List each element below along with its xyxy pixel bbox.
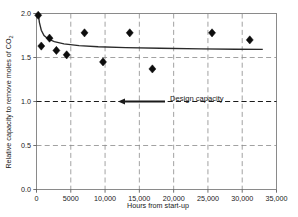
- x-tick-label: 0: [35, 194, 39, 203]
- x-tick-label: 5000: [63, 194, 79, 203]
- y-tick-label: 2.0: [21, 9, 31, 18]
- y-axis-title-main: Relative capacity to remove moles of CO: [4, 38, 13, 169]
- x-axis-title: Hours from start-up: [127, 201, 189, 210]
- x-tick-label: 35,000: [266, 194, 288, 203]
- y-tick-label: 0.0: [21, 185, 31, 194]
- y-tick-label: 1.0: [21, 97, 31, 106]
- y-tick-label: 0.5: [21, 141, 31, 150]
- design-capacity-label: Design capacity: [170, 94, 224, 103]
- x-tick-label: 30,000: [231, 194, 253, 203]
- x-tick-label: 25,000: [197, 194, 219, 203]
- y-tick-label: 1.5: [21, 53, 31, 62]
- relative-capacity-scatter-chart: 0500010,00015,00020,00025,00030,00035,00…: [0, 0, 298, 217]
- x-tick-label: 10,000: [94, 194, 116, 203]
- chart-figure: 0500010,00015,00020,00025,00030,00035,00…: [0, 0, 298, 217]
- chart-background: [0, 0, 298, 217]
- y-axis-title: Relative capacity to remove moles of CO2: [4, 35, 14, 168]
- y-axis-title-subscript: 2: [8, 35, 14, 38]
